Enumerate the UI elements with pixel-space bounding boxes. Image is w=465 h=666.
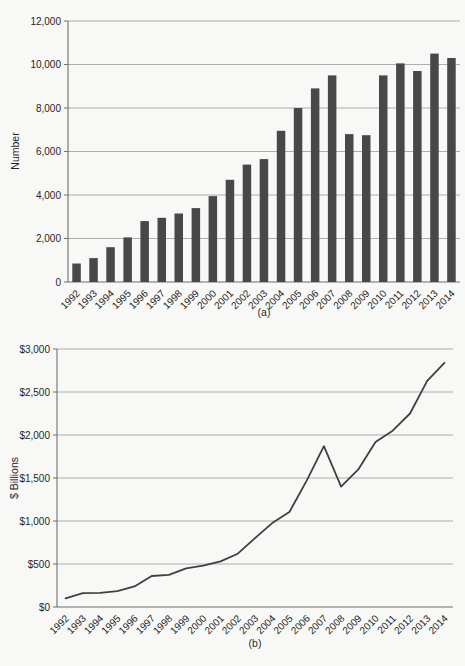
bar-2009 bbox=[362, 135, 371, 282]
y-tick-label: $2,000 bbox=[19, 430, 50, 441]
bar-1995 bbox=[123, 237, 131, 282]
bar-1994 bbox=[106, 247, 115, 282]
bar-1992 bbox=[72, 264, 81, 283]
chart-a-canvas: 02,0004,0006,0008,00010,00012,0001992199… bbox=[0, 0, 465, 330]
y-tick-label: $0 bbox=[39, 602, 51, 613]
chart-b-canvas: $0$500$1,000$1,500$2,000$2,500$3,0001992… bbox=[0, 330, 465, 666]
bar-2003 bbox=[260, 159, 269, 282]
bar-2012 bbox=[413, 71, 422, 282]
y-tick-label: $1,000 bbox=[19, 516, 50, 527]
line-series bbox=[66, 363, 445, 599]
y-tick-label: $500 bbox=[28, 559, 51, 570]
bar-2008 bbox=[345, 134, 354, 282]
bar-2004 bbox=[277, 131, 286, 282]
x-tick-label-2014: 2014 bbox=[426, 612, 450, 636]
bar-1997 bbox=[158, 218, 167, 282]
y-tick-label: 4,000 bbox=[36, 190, 61, 201]
bar-1996 bbox=[140, 221, 149, 282]
bar-1999 bbox=[192, 208, 201, 282]
bar-2006 bbox=[311, 88, 320, 282]
figure-two-panel-chart: 02,0004,0006,0008,00010,00012,0001992199… bbox=[0, 0, 465, 666]
y-tick-label: 6,000 bbox=[36, 146, 61, 157]
bar-2014 bbox=[447, 58, 456, 282]
bar-2013 bbox=[430, 54, 439, 282]
y-tick-label: 0 bbox=[55, 277, 61, 288]
chart-b-y-axis-title: $ Billions bbox=[7, 428, 21, 528]
y-tick-label: 12,000 bbox=[30, 16, 61, 27]
bar-1998 bbox=[175, 214, 184, 283]
chart-a-y-axis-title: Number bbox=[8, 101, 22, 201]
y-tick-label: 2,000 bbox=[36, 233, 61, 244]
y-tick-label: $1,500 bbox=[19, 473, 50, 484]
bar-2001 bbox=[226, 180, 235, 282]
bar-2002 bbox=[243, 165, 252, 282]
y-tick-label: 10,000 bbox=[30, 59, 61, 70]
y-tick-label: $3,000 bbox=[19, 344, 50, 355]
bar-2000 bbox=[209, 196, 218, 282]
y-tick-label: 8,000 bbox=[36, 103, 61, 114]
chart-a-caption: (a) bbox=[68, 306, 460, 318]
bar-1993 bbox=[89, 258, 98, 282]
y-tick-label: $2,500 bbox=[19, 387, 50, 398]
bar-2010 bbox=[379, 75, 388, 282]
chart-b-caption: (b) bbox=[57, 637, 453, 649]
bar-2011 bbox=[396, 63, 405, 282]
bar-2007 bbox=[328, 75, 337, 282]
bar-2005 bbox=[294, 108, 303, 282]
